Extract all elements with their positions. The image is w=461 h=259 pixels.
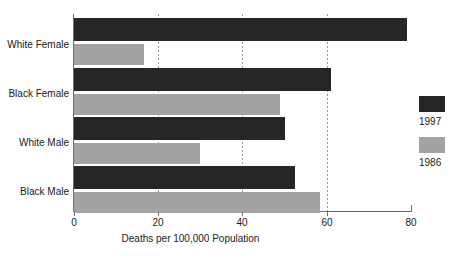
x-tick-label-60: 60 [321,217,332,229]
bar-white-female-1986 [74,44,144,65]
bar-black-male-1986 [74,192,320,213]
bar-black-male-1997 [74,166,295,189]
x-axis-title: Deaths per 100,000 Population [0,233,461,244]
bar-chart: White Female Black Female White Male Bla… [0,0,461,259]
x-tick-label-20: 20 [152,217,163,229]
category-label-white-female: White Female [7,39,69,51]
bar-white-male-1986 [74,143,200,164]
x-tick-60 [327,212,328,216]
legend-swatch-1986-icon [419,137,445,153]
category-label-black-male: Black Male [20,186,69,198]
x-tick-20 [158,212,159,216]
legend-swatch-1997-icon [419,96,445,112]
bar-white-male-1997 [74,117,285,140]
bar-black-female-1997 [74,68,331,91]
legend-label-1997: 1997 [419,116,461,128]
category-label-black-female: Black Female [8,88,69,100]
category-label-white-male: White Male [19,137,69,149]
bar-group-white-male [74,117,411,161]
bar-group-black-male [74,166,411,210]
legend-label-1986: 1986 [419,157,461,169]
x-tick-40 [242,212,243,216]
plot-area [74,14,411,211]
x-tick-label-40: 40 [236,217,247,229]
category-axis-labels: White Female Black Female White Male Bla… [0,0,69,259]
x-tick-0 [74,212,75,216]
x-tick-label-0: 0 [71,217,77,229]
bar-black-female-1986 [74,94,280,115]
bar-white-female-1997 [74,18,407,41]
chart-legend: 1997 1986 [419,96,461,178]
x-tick-label-80: 80 [405,217,416,229]
x-tick-80 [411,205,412,212]
bar-group-white-female [74,18,411,62]
bar-group-black-female [74,68,411,112]
